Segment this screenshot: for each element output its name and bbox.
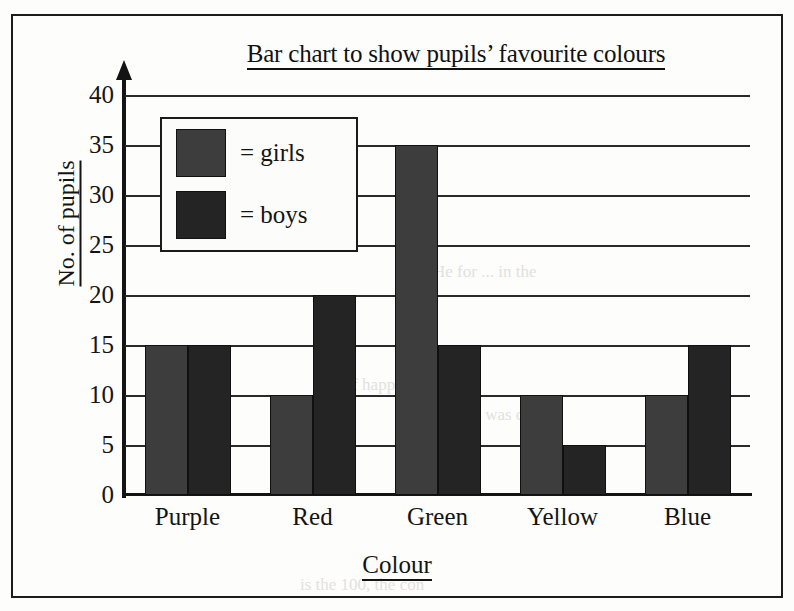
y-axis-tick-label: 30 bbox=[62, 182, 114, 207]
legend-item: = girls bbox=[176, 129, 305, 177]
x-axis-tick-label: Red bbox=[250, 503, 375, 531]
bar-purple-girls bbox=[145, 345, 188, 495]
y-axis-tick-label: 25 bbox=[62, 232, 114, 257]
bar-blue-boys bbox=[688, 345, 731, 495]
chart-title: Bar chart to show pupils’ favourite colo… bbox=[176, 40, 736, 68]
y-axis-tick-labels: 4035302520151050 bbox=[52, 0, 114, 611]
x-axis-label: Colour bbox=[0, 551, 794, 579]
chart-legend: = girls= boys bbox=[160, 117, 358, 252]
gridline bbox=[125, 295, 750, 297]
bar-red-boys bbox=[313, 295, 356, 495]
legend-label: = boys bbox=[240, 201, 308, 229]
legend-swatch bbox=[176, 191, 226, 239]
worksheet-page: lear. He for ... in the ll of happens ..… bbox=[0, 0, 794, 611]
bar-green-girls bbox=[395, 145, 438, 495]
bar-purple-boys bbox=[188, 345, 231, 495]
bar-green-boys bbox=[438, 345, 481, 495]
y-axis-tick-label: 10 bbox=[62, 382, 114, 407]
x-axis-tick-label: Blue bbox=[625, 503, 750, 531]
y-axis-tick-label: 40 bbox=[62, 82, 114, 107]
y-axis-tick-label: 35 bbox=[62, 132, 114, 157]
y-axis-tick-label: 20 bbox=[62, 282, 114, 307]
y-axis-tick-label: 5 bbox=[62, 432, 114, 457]
y-axis-tick-label: 15 bbox=[62, 332, 114, 357]
y-axis-arrow-icon bbox=[116, 60, 132, 80]
bar-blue-girls bbox=[645, 395, 688, 495]
chart-title-text: Bar chart to show pupils’ favourite colo… bbox=[247, 40, 666, 70]
gridline bbox=[125, 95, 750, 97]
y-axis-tick-label: 0 bbox=[62, 482, 114, 507]
x-axis-label-text: Colour bbox=[362, 551, 431, 581]
legend-label: = girls bbox=[240, 139, 305, 167]
legend-swatch bbox=[176, 129, 226, 177]
bar-yellow-girls bbox=[520, 395, 563, 495]
x-axis-tick-label: Yellow bbox=[500, 503, 625, 531]
x-axis-tick-label: Purple bbox=[125, 503, 250, 531]
legend-item: = boys bbox=[176, 191, 308, 239]
bar-red-girls bbox=[270, 395, 313, 495]
x-axis-tick-label: Green bbox=[375, 503, 500, 531]
bar-yellow-boys bbox=[563, 445, 606, 495]
